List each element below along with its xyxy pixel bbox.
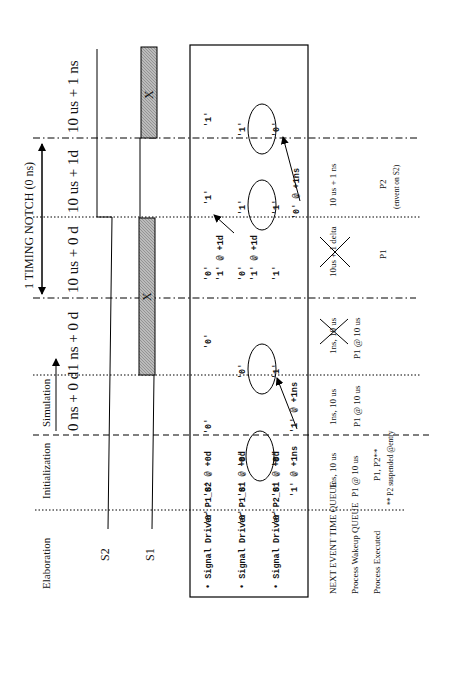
- wakeup-queue-label: Process Wakeup QUEUE: [350, 502, 360, 594]
- init-next-event: 1ns, 10 us: [328, 453, 338, 489]
- driver-1-sim0: '0': [204, 419, 214, 434]
- time-label-1: 1 ns + 0 d: [65, 312, 82, 371]
- driver-3-sim0b: '1' @ +1ns: [290, 382, 300, 433]
- notch0-next-event: 10us + 1 delta: [328, 226, 338, 277]
- notch0-executed: P1: [378, 249, 388, 259]
- signal-s1-label: S1: [143, 548, 158, 561]
- s1-unknown-x: X: [140, 292, 155, 301]
- notch1-next-event: 10 us + 1 ns: [328, 163, 338, 207]
- timing-notch-label: 1 TIMING NOTCH (0 ns): [22, 162, 37, 289]
- driver-2-name: • Signal Driver P1_S1: [238, 482, 248, 589]
- driver-2-notch-a: '0': [238, 266, 248, 281]
- driver-1-notch-b: '1' @ +1d: [216, 235, 226, 281]
- s1-unknown-x-2: X: [142, 90, 157, 99]
- diagram-stage: Elaboration Initialization Simulation 1 …: [0, 0, 453, 689]
- driver-2-notch-b: '1' @ +1d: [250, 235, 260, 281]
- driver-3-name: • Signal Driver P2_S1: [272, 482, 282, 589]
- init-executed: P1, P2**: [372, 448, 382, 481]
- driver-3-notch-c: '1': [272, 200, 282, 215]
- signal-s2-label: S2: [98, 548, 113, 561]
- process-executed-label: Process Executed: [372, 531, 382, 594]
- sim0-wakeup: P1 @ 10 us: [352, 385, 362, 427]
- driver-3-sim1: '1': [272, 364, 282, 379]
- init-wakeup: P1 @ 10 us: [350, 455, 360, 497]
- driver-1-elab: '0': [204, 510, 214, 525]
- driver-1-sim1: '0': [204, 334, 214, 349]
- phase-elaboration: Elaboration: [40, 538, 52, 589]
- phase-initialization: Initialization: [40, 443, 52, 499]
- driver-1-final: '1': [204, 112, 214, 127]
- driver-3-final: '0': [272, 122, 282, 137]
- notch1-note: (envent on S2): [392, 165, 401, 209]
- driver-1-notch-a: '0': [204, 266, 214, 281]
- driver-3-sim0: '0': [272, 452, 282, 467]
- driver-1-init: '0' @ +0d: [204, 451, 214, 497]
- driver-2-elab: '0': [238, 510, 248, 525]
- driver-2-final: '1': [238, 122, 248, 137]
- time-label-0: 0 ns + 0 d: [65, 372, 82, 431]
- time-label-3: 10 us + 1d: [65, 150, 82, 213]
- driver-3-notch-d: '0' @ +1ns: [292, 168, 302, 219]
- driver-3-elab: '0': [272, 510, 282, 525]
- time-label-4: 10 us + 1 ns: [65, 60, 82, 133]
- sim1-next-event: 1ns, 10 us: [328, 318, 338, 354]
- next-event-queue-label: NEXT EVENT TIME QUEUE: [328, 482, 338, 594]
- driver-2-notch-c: '1': [238, 200, 248, 215]
- driver-2-sim0: '0': [238, 452, 248, 467]
- time-label-2: 10 us + 0 d: [65, 226, 82, 293]
- init-note: ** P2 suspended @entry: [386, 430, 395, 505]
- sim1-wakeup: P1 @ 10 us: [352, 317, 362, 359]
- phase-simulation: Simulation: [40, 379, 52, 427]
- notch1-executed: P2: [378, 179, 388, 189]
- driver-3-init2: '1' @ +1ns: [290, 446, 300, 497]
- driver-2-sim1: '0': [238, 364, 248, 379]
- driver-1-name: • Signal Driver P1_S2: [204, 482, 214, 589]
- driver-1-notch-c: '1': [204, 190, 214, 205]
- driver-3-notch-a: '1': [272, 266, 282, 281]
- sim0-next-event: 1ns, 10 us: [328, 389, 338, 425]
